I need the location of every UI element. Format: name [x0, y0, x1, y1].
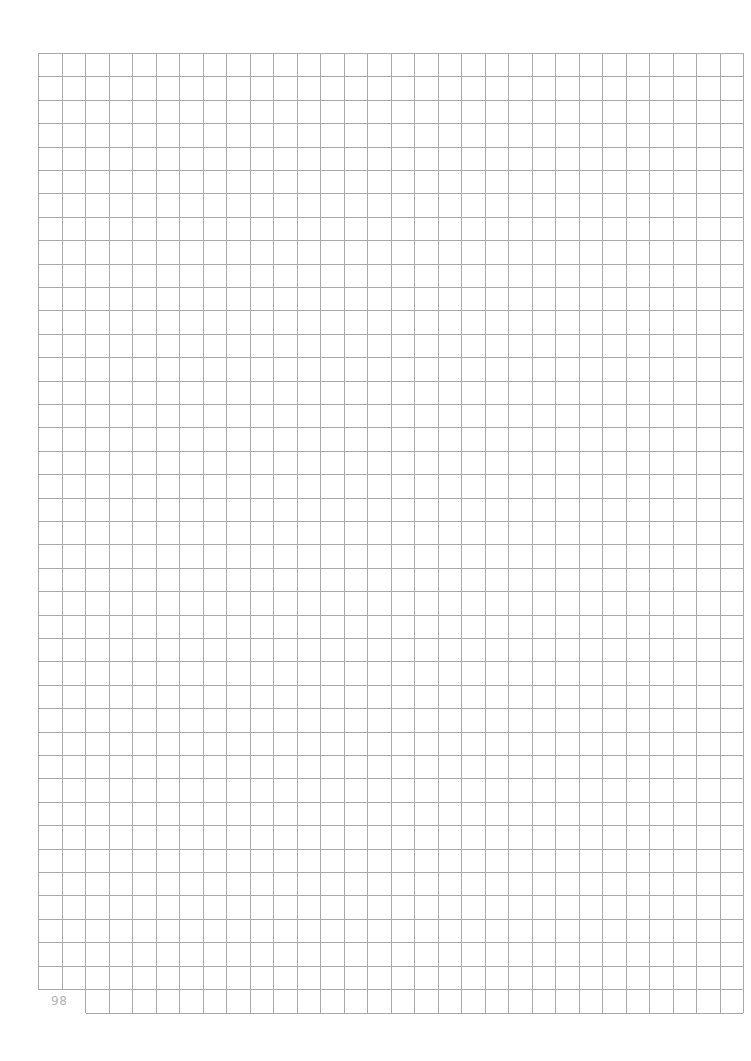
graph-paper-grid: [0, 0, 751, 1061]
notebook-page: 98: [0, 0, 751, 1061]
page-number: 98: [51, 994, 67, 1008]
